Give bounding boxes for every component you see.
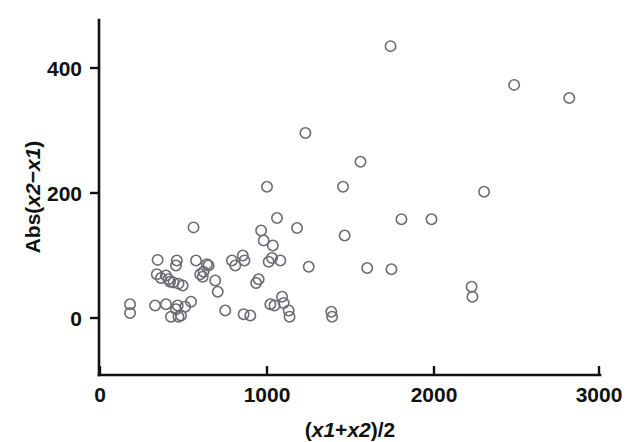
data-point [220,305,230,315]
x-title-open: ( [305,418,312,441]
data-point [385,41,395,51]
data-point [245,310,255,320]
data-point [256,225,266,235]
data-point [466,282,476,292]
x-axis-title: (x1+x2)/2 [305,418,396,441]
y-axis-ticks [90,68,99,318]
data-point [188,222,198,232]
data-point [509,80,519,90]
plot-canvas: 400 200 0 0 1000 2000 3000 Abs(x2−x1) (x… [0,0,643,442]
x-tick-label-0: 0 [94,383,106,406]
data-point [272,213,282,223]
data-point [396,214,406,224]
data-point [300,128,310,138]
x-tick-label-3000: 3000 [576,383,623,406]
y-title-minus: − [21,171,44,183]
x-title-close: )/2 [371,418,396,441]
x-axis-ticks [100,366,599,375]
data-point [292,223,302,233]
data-point [467,292,477,302]
data-point [268,240,278,250]
data-point [210,275,220,285]
data-point [284,312,294,322]
data-point [195,269,205,279]
data-point [150,300,160,310]
x-tick-label-1000: 1000 [244,383,291,406]
data-point [161,299,171,309]
data-point [191,255,201,265]
y-title-var1: x2 [21,183,44,208]
x-tick-label-2000: 2000 [411,383,458,406]
data-point [279,298,289,308]
data-point [386,264,396,274]
x-title-var2: x2 [346,418,371,441]
y-title-prefix: Abs( [21,207,44,254]
svg-text:Abs(x2−x1): Abs(x2−x1) [21,141,44,254]
data-point [152,255,162,265]
data-point [338,182,348,192]
data-point [262,182,272,192]
y-title-var2: x1 [21,148,44,172]
data-point [362,263,372,273]
x-title-plus: + [335,418,347,441]
y-tick-label-200: 200 [47,182,82,205]
x-title-var1: x1 [311,418,335,441]
data-points-layer [125,41,575,322]
data-point [304,262,314,272]
y-tick-label-0: 0 [70,307,82,330]
data-point [479,187,489,197]
data-point [426,214,436,224]
y-title-suffix: ) [21,141,44,148]
data-point [355,157,365,167]
data-point [213,287,223,297]
data-point [564,93,574,103]
data-point [339,230,349,240]
scatter-plot-figure: 400 200 0 0 1000 2000 3000 Abs(x2−x1) (x… [0,0,643,442]
y-tick-label-400: 400 [47,57,82,80]
y-axis-title: Abs(x2−x1) [21,141,44,254]
